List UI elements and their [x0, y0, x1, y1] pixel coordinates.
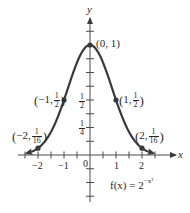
y-axis-label: y [87, 3, 92, 15]
function-label: f(x) = 2−x² [110, 177, 153, 191]
x-tick-label: 0 [83, 158, 88, 169]
point-label-1-half: (1,12) [119, 92, 144, 109]
x-tick-label: −2 [32, 160, 43, 171]
point-label-neg1-half: (−1,12) [34, 92, 65, 109]
y-tick-label-quarter: 14 [78, 120, 86, 137]
x-tick-label: −1 [58, 160, 69, 171]
x-tick-label: 1 [114, 160, 119, 171]
point-label-0-1: (0, 1) [96, 38, 120, 49]
data-point [87, 42, 92, 47]
x-tick-label: 2 [139, 160, 144, 171]
x-axis-label: x [178, 148, 183, 160]
point-label-neg2-sixteenth: (−2,116) [12, 128, 47, 145]
data-point [35, 146, 40, 151]
point-label-2-sixteenth: (2,116) [135, 128, 164, 145]
data-point [139, 146, 144, 151]
graph-canvas [0, 0, 190, 213]
data-point [113, 97, 118, 102]
y-tick-label-half: 12 [78, 93, 86, 110]
